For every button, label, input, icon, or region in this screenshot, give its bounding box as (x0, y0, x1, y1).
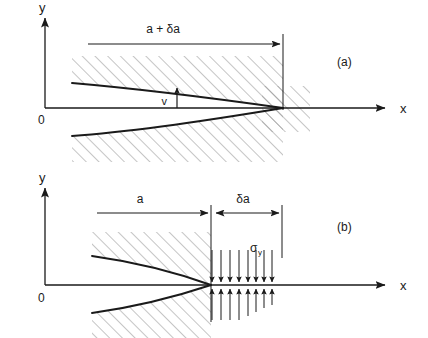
figure-root: y x 0 a + δa v (a) (0, 0, 428, 338)
crack-diagram-svg: y x 0 a + δa v (a) (0, 0, 428, 338)
sigma-glyph: σ (250, 241, 258, 255)
panel-b-hatching (85, 228, 217, 338)
panel-b-dimension-a-label: a (137, 192, 144, 206)
hatch-tip-a (262, 86, 312, 132)
panel-b: y x 0 a δa (38, 170, 407, 338)
panel-a-y-axis-label: y (39, 0, 46, 15)
panel-b-origin-label: 0 (38, 291, 45, 305)
panel-b-label: (b) (337, 220, 352, 234)
panel-b-dimension-da-label: δa (236, 192, 250, 206)
panel-a-label: (a) (337, 55, 352, 69)
panel-a-x-axis-label: x (400, 101, 407, 116)
panel-b-y-axis-label: y (39, 170, 46, 185)
panel-a: y x 0 a + δa v (a) (38, 0, 407, 170)
panel-a-v-label: v (162, 95, 168, 107)
panel-b-stress-arrows-lower (212, 289, 272, 320)
panel-b-sigma-label: σy (250, 241, 262, 257)
sigma-subscript: y (258, 248, 262, 257)
panel-a-dimension-label: a + δa (146, 22, 180, 36)
panel-b-stress-arrows-upper (212, 250, 272, 282)
panel-a-origin-label: 0 (38, 113, 45, 127)
panel-b-x-axis-label: x (400, 278, 407, 293)
